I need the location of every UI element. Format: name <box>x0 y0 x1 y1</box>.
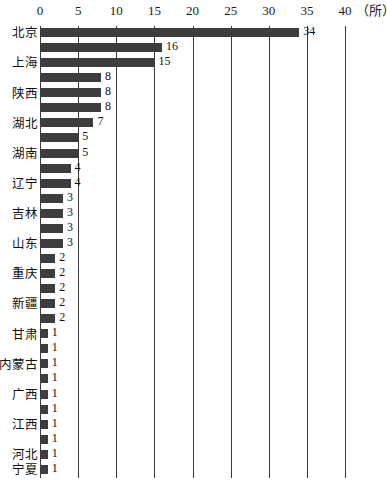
x-tick-label-15: 15 <box>148 4 161 17</box>
category-label-宁夏: 宁夏 <box>12 464 38 477</box>
x-axis-unit-label: （所） <box>356 4 387 17</box>
category-label-内蒙古: 内蒙古 <box>0 359 38 372</box>
category-label-湖北: 湖北 <box>12 118 38 131</box>
category-label-重庆: 重庆 <box>12 268 38 281</box>
category-label-吉林: 吉林 <box>12 208 38 221</box>
x-axis-tick-labels: 0510152025303540（所） <box>0 0 387 26</box>
category-label-甘肃: 甘肃 <box>12 329 38 342</box>
category-label-新疆: 新疆 <box>12 298 38 311</box>
category-label-辽宁: 辽宁 <box>12 178 38 191</box>
category-label-北京: 北京 <box>12 27 38 40</box>
category-label-江西: 江西 <box>12 419 38 432</box>
category-label-陕西: 陕西 <box>12 88 38 101</box>
x-tick-label-10: 10 <box>110 4 123 17</box>
plot-area: 341615888755443333222221111111111 北京上海陕西… <box>0 26 387 478</box>
category-label-山东: 山东 <box>12 238 38 251</box>
x-tick-label-35: 35 <box>300 4 313 17</box>
category-label-河北: 河北 <box>12 449 38 462</box>
x-tick-label-25: 25 <box>224 4 237 17</box>
x-tick-label-40: 40 <box>339 4 352 17</box>
x-tick-label-20: 20 <box>186 4 199 17</box>
x-tick-label-5: 5 <box>75 4 82 17</box>
category-labels: 北京上海陕西湖北湖南辽宁吉林山东重庆新疆甘肃内蒙古广西江西河北宁夏 <box>0 26 387 478</box>
category-label-湖南: 湖南 <box>12 148 38 161</box>
category-label-上海: 上海 <box>12 57 38 70</box>
category-label-广西: 广西 <box>12 389 38 402</box>
x-tick-label-30: 30 <box>262 4 275 17</box>
x-tick-label-0: 0 <box>37 4 44 17</box>
bar-chart: 0510152025303540（所） 34161588875544333322… <box>0 0 387 499</box>
